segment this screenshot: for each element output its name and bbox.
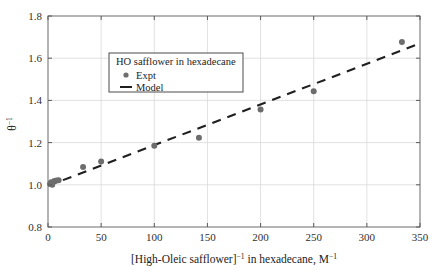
plot-background bbox=[48, 16, 420, 227]
legend-title: HO safflower in hexadecane bbox=[116, 56, 236, 67]
x-axis-title-mid: in hexadecane, M bbox=[245, 253, 329, 266]
x-tick-label: 0 bbox=[45, 231, 51, 243]
y-tick-label: 1.6 bbox=[28, 52, 42, 64]
x-tick-label: 350 bbox=[412, 231, 429, 243]
y-tick-label: 1.0 bbox=[28, 179, 42, 191]
x-tick-label: 250 bbox=[305, 231, 322, 243]
chart-figure: 050100150200250300350 0.81.01.21.41.61.8… bbox=[0, 0, 436, 275]
y-axis-title-sup: −1 bbox=[5, 117, 14, 125]
y-axis-title: θ−1 bbox=[5, 117, 18, 131]
scatter-plot: 050100150200250300350 0.81.01.21.41.61.8… bbox=[0, 0, 436, 275]
y-tick-label: 0.8 bbox=[28, 221, 42, 233]
x-axis-title-sup2: −1 bbox=[329, 252, 337, 261]
x-axis-title: [High-Oleic safflower]−1 in hexadecane, … bbox=[131, 252, 337, 266]
x-tick-label: 300 bbox=[359, 231, 376, 243]
data-point bbox=[98, 159, 104, 165]
legend: HO safflower in hexadecane Expt Model bbox=[109, 53, 243, 93]
data-point bbox=[196, 135, 202, 141]
x-axis-title-sup1: −1 bbox=[237, 252, 245, 261]
x-tick-label: 150 bbox=[199, 231, 216, 243]
y-tick-labels: 0.81.01.21.41.61.8 bbox=[28, 10, 42, 233]
data-point bbox=[258, 106, 264, 112]
x-tick-labels: 050100150200250300350 bbox=[45, 231, 429, 243]
data-point bbox=[80, 164, 86, 170]
x-tick-label: 50 bbox=[96, 231, 108, 243]
y-tick-label: 1.8 bbox=[28, 10, 42, 22]
legend-label-model: Model bbox=[136, 82, 163, 93]
data-point bbox=[311, 88, 317, 94]
x-tick-label: 100 bbox=[146, 231, 163, 243]
data-point bbox=[151, 143, 157, 149]
x-axis-title-main: [High-Oleic safflower] bbox=[131, 253, 236, 266]
y-tick-label: 1.4 bbox=[28, 94, 42, 106]
data-point bbox=[56, 177, 62, 183]
x-tick-label: 200 bbox=[252, 231, 269, 243]
legend-marker-circle-icon bbox=[123, 72, 128, 77]
y-tick-label: 1.2 bbox=[28, 137, 42, 149]
legend-label-expt: Expt bbox=[136, 70, 156, 81]
data-point bbox=[399, 39, 405, 45]
